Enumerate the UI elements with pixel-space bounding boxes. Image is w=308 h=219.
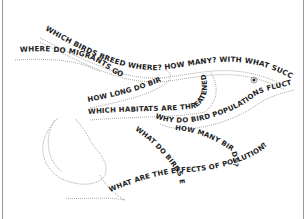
phrase-pollution: WHAT ARE THE EFFECTS OF POLLUTION? <box>108 141 269 194</box>
phrase-eat: WHAT DO BIRDS EAT? <box>0 0 186 185</box>
bird-eye-pupil <box>253 79 256 82</box>
bird-calligram: WHICH BIRDS BREED WHERE? HOW MANY? WITH … <box>0 0 308 219</box>
